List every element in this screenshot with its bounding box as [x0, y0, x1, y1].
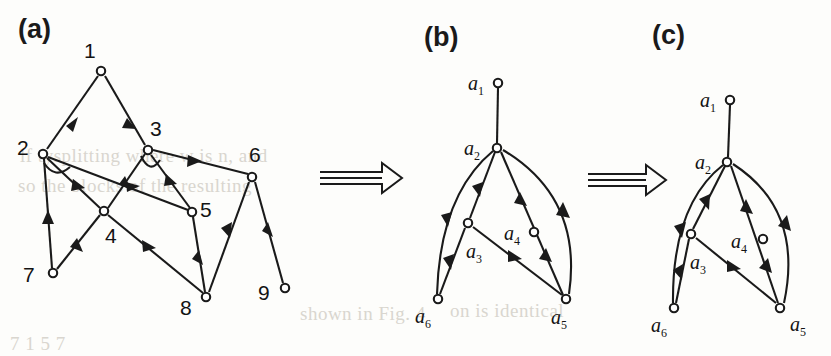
- node-label-4: 4: [105, 224, 117, 248]
- arrowhead-c-a4-a5: [759, 258, 772, 273]
- node-label-b-a6: a6: [415, 305, 431, 332]
- arrowhead-1-3: [122, 118, 136, 129]
- arrowhead-3-5: [164, 174, 177, 186]
- node-label-8: 8: [180, 296, 192, 320]
- node-2[interactable]: [39, 150, 47, 158]
- arrowhead-6-9: [262, 222, 273, 237]
- node-b-a1[interactable]: [494, 79, 502, 87]
- edge-6-8: [209, 182, 249, 292]
- edge-3-6: [153, 150, 248, 174]
- arrowhead-4-8: [142, 240, 156, 252]
- node-label-7: 7: [23, 263, 35, 287]
- node-label-b-a1: a1: [468, 72, 484, 99]
- arrowhead-2-4: [71, 179, 85, 191]
- arrowhead-b-a2-a5-curve: [556, 202, 570, 218]
- edge-b-a1-a2: [497, 88, 498, 143]
- graph-c: [670, 96, 791, 312]
- node-label-1: 1: [84, 39, 96, 63]
- node-c-a6[interactable]: [670, 304, 678, 312]
- arrow-b-to-c: [588, 165, 666, 195]
- arrowhead-b-a2-a3: [472, 182, 483, 197]
- node-8[interactable]: [202, 293, 210, 301]
- arrowhead-3-6: [187, 155, 202, 167]
- node-1[interactable]: [97, 67, 105, 75]
- node-label-6: 6: [249, 143, 261, 167]
- node-label-c-a1: a1: [700, 89, 716, 116]
- arrowhead-2-7: [42, 210, 54, 224]
- graph-a: [39, 67, 289, 301]
- arrowhead-b-a3-a6: [443, 254, 454, 270]
- node-b-a3[interactable]: [464, 219, 472, 227]
- arrowhead-c-a2-a4: [740, 199, 753, 214]
- node-6[interactable]: [248, 173, 256, 181]
- node-b-a5[interactable]: [562, 295, 570, 303]
- node-b-a6[interactable]: [434, 295, 442, 303]
- edge-1-2: [47, 76, 98, 149]
- node-c-a4[interactable]: [759, 235, 767, 243]
- node-4[interactable]: [100, 207, 108, 215]
- graph-b: [434, 79, 571, 303]
- node-label-9: 9: [258, 281, 270, 305]
- arrowhead-5-8: [192, 250, 203, 265]
- node-c-a2[interactable]: [723, 158, 731, 166]
- arrowhead-b-a3-a5: [508, 250, 522, 262]
- node-label-c-a2: a2: [695, 151, 711, 178]
- arrowhead-b-a2-a4: [514, 192, 527, 206]
- node-5[interactable]: [188, 208, 196, 216]
- node-label-b-a4: a4: [504, 222, 520, 249]
- edge-4-8: [108, 215, 203, 293]
- arrowhead-b-a4-a5: [539, 248, 552, 262]
- node-7[interactable]: [49, 269, 57, 277]
- diagram-svg: [0, 0, 831, 356]
- node-label-3: 3: [150, 117, 162, 141]
- arrow-a-to-b: [320, 163, 402, 193]
- node-c-a1[interactable]: [726, 96, 734, 104]
- node-label-b-a3: a3: [466, 240, 482, 267]
- node-9[interactable]: [281, 284, 289, 292]
- node-label-b-a2: a2: [464, 137, 480, 164]
- node-label-c-a5: a5: [790, 313, 806, 340]
- node-label-5: 5: [200, 198, 212, 222]
- node-b-a4[interactable]: [530, 228, 538, 236]
- edge-1-3: [105, 76, 145, 145]
- node-label-c-a6: a6: [651, 314, 667, 341]
- node-label-c-a3: a3: [690, 251, 706, 278]
- node-label-c-a4: a4: [731, 230, 747, 257]
- node-b-a2[interactable]: [493, 144, 501, 152]
- angle-arc-node-3: [141, 156, 160, 167]
- node-c-a5[interactable]: [776, 304, 784, 312]
- node-label-2: 2: [17, 136, 29, 160]
- node-c-a3[interactable]: [687, 230, 695, 238]
- node-3[interactable]: [144, 146, 152, 154]
- node-label-b-a5: a5: [551, 306, 567, 333]
- arrowhead-c-a3-a5: [727, 260, 741, 272]
- figure-container: lf tysplitting where w is n, andso the b…: [0, 0, 831, 356]
- edge-c-a1-a2: [728, 105, 730, 157]
